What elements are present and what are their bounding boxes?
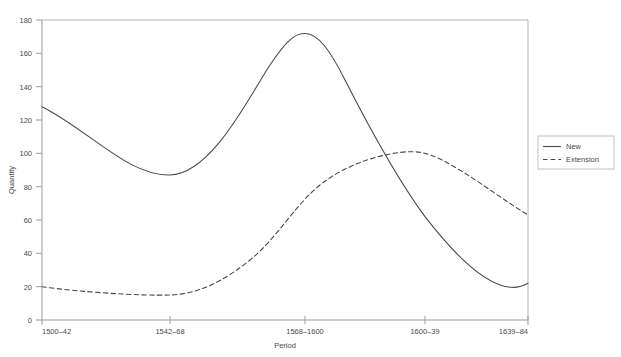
y-axis-title: Quantity	[7, 166, 16, 194]
y-tick-label-40: 40	[24, 249, 32, 258]
x-tick-label-3: 1600–39	[410, 327, 439, 336]
legend-label-new: New	[566, 142, 582, 151]
y-axis-tick-labels: 0 20 40 60 80 100 120 140 160 180	[19, 16, 32, 325]
x-tick-label-4: 1639–84	[499, 327, 528, 336]
y-tick-label-60: 60	[24, 216, 32, 225]
y-axis-ticks	[36, 20, 42, 320]
y-tick-label-80: 80	[24, 183, 32, 192]
x-tick-label-2: 1568–1600	[286, 327, 324, 336]
chart-legend: New Extension	[538, 136, 614, 169]
y-tick-label-180: 180	[19, 16, 32, 25]
x-tick-label-0: 1500–42	[42, 327, 71, 336]
y-tick-label-100: 100	[19, 149, 32, 158]
y-tick-label-160: 160	[19, 49, 32, 58]
x-tick-label-1: 1542–68	[155, 327, 184, 336]
line-chart: 0 20 40 60 80 100 120 140 160 180 1500–4…	[0, 0, 621, 357]
x-axis-title: Period	[274, 341, 296, 350]
y-tick-label-20: 20	[24, 283, 32, 292]
y-tick-label-0: 0	[28, 316, 32, 325]
series-line-new	[42, 34, 528, 288]
x-axis-tick-labels: 1500–42 1542–68 1568–1600 1600–39 1639–8…	[42, 327, 528, 336]
legend-label-extension: Extension	[566, 155, 599, 164]
chart-container: 0 20 40 60 80 100 120 140 160 180 1500–4…	[0, 0, 621, 357]
series-line-extension	[42, 152, 528, 295]
y-tick-label-140: 140	[19, 83, 32, 92]
y-tick-label-120: 120	[19, 116, 32, 125]
